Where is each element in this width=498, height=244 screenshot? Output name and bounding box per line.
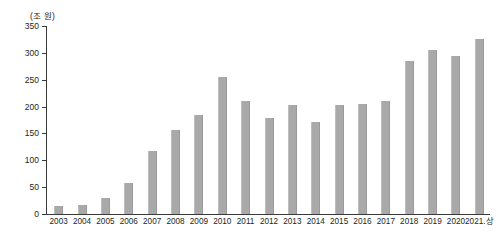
y-tick-label: 200 <box>25 102 39 111</box>
y-tick-mark <box>42 80 46 81</box>
x-tick-label: 2020 <box>447 218 465 226</box>
bar <box>381 101 390 214</box>
bar <box>78 205 87 214</box>
x-tick-label: 2016 <box>353 218 371 226</box>
x-tick-label: 2004 <box>73 218 91 226</box>
x-tick-label: 2009 <box>190 218 208 226</box>
bar-chart: (조 원) 050100150200250300350 200320042005… <box>0 0 498 244</box>
x-tick-label: 2019 <box>423 218 441 226</box>
x-tick-label: 2015 <box>330 218 348 226</box>
y-tick-mark <box>42 214 46 215</box>
bar <box>311 122 320 214</box>
y-tick-label: 300 <box>25 49 39 58</box>
plot-area: 050100150200250300350 200320042005200620… <box>46 26 490 214</box>
x-tick-label: 2007 <box>143 218 161 226</box>
bar <box>124 183 133 214</box>
bar <box>101 198 110 214</box>
y-tick-mark <box>42 133 46 134</box>
bar <box>171 130 180 214</box>
bar <box>335 105 344 214</box>
bar <box>428 50 437 214</box>
bar <box>451 56 460 214</box>
bar <box>194 115 203 214</box>
bar <box>218 77 227 214</box>
x-tick-label: 2012 <box>260 218 278 226</box>
y-tick-label: 100 <box>25 156 39 165</box>
bar <box>241 101 250 214</box>
x-tick-label: 2014 <box>307 218 325 226</box>
bar <box>148 151 157 214</box>
y-tick-mark <box>42 26 46 27</box>
bar <box>265 118 274 214</box>
y-tick-label: 0 <box>34 210 39 219</box>
x-tick-label: 2013 <box>283 218 301 226</box>
y-tick-mark <box>42 160 46 161</box>
y-tick-label: 250 <box>25 75 39 84</box>
x-axis-line <box>46 214 490 215</box>
bar <box>358 104 367 214</box>
x-tick-label: 2018 <box>400 218 418 226</box>
x-tick-label: 2003 <box>50 218 68 226</box>
y-tick-label: 150 <box>25 129 39 138</box>
x-tick-label: 2011 <box>237 218 255 226</box>
x-tick-label: 2010 <box>213 218 231 226</box>
x-tick-label: 2017 <box>377 218 395 226</box>
bar <box>475 39 484 214</box>
bar <box>288 105 297 214</box>
y-axis-line <box>46 26 47 214</box>
x-tick-label: 2006 <box>120 218 138 226</box>
x-tick-label: 2005 <box>96 218 114 226</box>
y-tick-mark <box>42 53 46 54</box>
x-tick-label: 2021.상 <box>465 218 494 226</box>
bar <box>405 61 414 214</box>
y-tick-label: 50 <box>30 183 39 192</box>
y-axis-unit-label: (조 원) <box>30 9 55 21</box>
x-tick-label: 2008 <box>166 218 184 226</box>
y-tick-label: 350 <box>25 22 39 31</box>
y-tick-mark <box>42 187 46 188</box>
bar <box>54 206 63 214</box>
y-tick-mark <box>42 107 46 108</box>
